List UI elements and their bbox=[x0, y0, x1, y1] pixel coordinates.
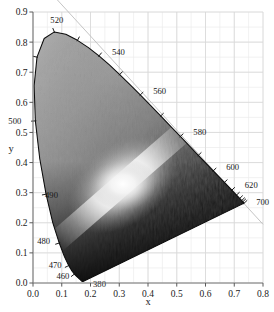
y-tick-label: 0.8 bbox=[16, 38, 28, 48]
y-tick-label: 0.6 bbox=[16, 98, 28, 108]
x-tick-label: 0.7 bbox=[228, 289, 240, 299]
x-tick-label: 0.3 bbox=[113, 289, 125, 299]
wavelength-label-470: 470 bbox=[49, 260, 62, 270]
wavelength-label-580: 580 bbox=[193, 127, 206, 137]
y-tick-label: 0.1 bbox=[16, 248, 28, 258]
y-tick-label: 0.3 bbox=[16, 188, 28, 198]
x-tick-label: 0.5 bbox=[171, 289, 183, 299]
wavelength-label-480: 480 bbox=[37, 236, 50, 246]
cie-chromaticity-plot: 380460470480490500520540560580600620700 … bbox=[0, 0, 274, 312]
y-tick-label: 0.9 bbox=[16, 7, 28, 17]
x-tick-label: 0.8 bbox=[257, 289, 269, 299]
wavelength-label-540: 540 bbox=[112, 47, 125, 57]
wavelength-label-560: 560 bbox=[153, 86, 166, 96]
y-axis-ticks: 0.00.10.20.30.40.50.60.70.80.9 bbox=[16, 7, 33, 288]
y-tick-label: 0.7 bbox=[16, 68, 28, 78]
y-tick-label: 0.2 bbox=[16, 218, 28, 228]
wavelength-label-620: 620 bbox=[245, 180, 258, 190]
y-tick-label: 0.4 bbox=[16, 158, 28, 168]
x-tick-label: 0.2 bbox=[85, 289, 97, 299]
y-tick-label: 0.0 bbox=[16, 278, 28, 288]
wavelength-label-600: 600 bbox=[226, 162, 239, 172]
wavelength-label-490: 490 bbox=[45, 190, 58, 200]
wavelength-label-500: 500 bbox=[8, 116, 21, 126]
wavelength-label-700: 700 bbox=[256, 197, 269, 207]
wavelength-label-520: 520 bbox=[50, 15, 63, 25]
x-axis-title: x bbox=[145, 296, 151, 307]
chromaticity-figure: 380460470480490500520540560580600620700 … bbox=[0, 0, 274, 312]
x-tick-label: 0.0 bbox=[27, 289, 39, 299]
y-tick-label: 0.5 bbox=[16, 128, 28, 138]
wavelength-label-460: 460 bbox=[56, 271, 69, 281]
x-tick-label: 0.1 bbox=[56, 289, 68, 299]
x-tick-label: 0.6 bbox=[200, 289, 212, 299]
y-axis-title: y bbox=[8, 143, 14, 154]
